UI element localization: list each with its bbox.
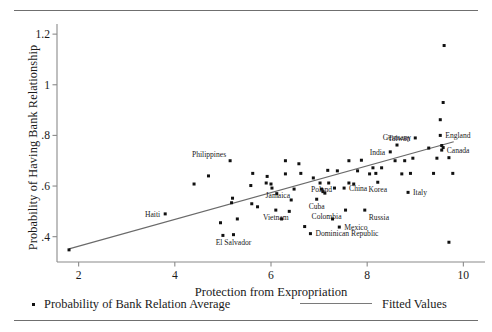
data-point-label: Vietnam (263, 213, 289, 222)
data-point (333, 187, 336, 190)
data-points-group (68, 44, 455, 251)
data-point (439, 134, 442, 137)
data-point (309, 232, 312, 235)
data-point (315, 198, 318, 201)
data-point (274, 209, 277, 212)
fitted-values-line (69, 142, 454, 249)
data-point (407, 191, 410, 194)
x-tick-label: 4 (172, 269, 178, 282)
data-point (376, 181, 379, 184)
data-point (409, 172, 412, 175)
data-point (270, 183, 273, 186)
data-point (256, 205, 259, 208)
data-point (284, 172, 287, 175)
data-point (270, 187, 273, 190)
data-point (394, 159, 397, 162)
x-tick-label: 6 (268, 269, 274, 282)
data-point (435, 157, 438, 160)
data-point (363, 209, 366, 212)
scatter-plot: .4.6.811.2246810 HaitiEl SalvadorPhilipp… (0, 0, 492, 332)
y-tick-label: .4 (41, 231, 50, 244)
data-point-label: Mexico (344, 223, 367, 232)
data-point (193, 183, 196, 186)
data-point-label: England (445, 131, 471, 140)
legend-item-fitted: Fitted Values (300, 297, 447, 312)
point-labels-group: HaitiEl SalvadorPhilippinesVietnamJamaic… (145, 131, 471, 246)
data-point-label: Korea (368, 185, 387, 194)
data-point (360, 159, 363, 162)
y-tick-label: 1.2 (36, 28, 51, 41)
data-point (371, 166, 374, 169)
data-point (380, 166, 383, 169)
data-point (266, 175, 269, 178)
data-point (290, 198, 293, 201)
data-point (251, 172, 254, 175)
x-tick-label: 2 (76, 269, 82, 282)
data-point-label: Haiti (145, 210, 160, 219)
data-point-label: Canada (447, 146, 470, 155)
data-point (403, 159, 406, 162)
data-point (343, 187, 346, 190)
data-point (221, 234, 224, 237)
data-point (303, 225, 306, 228)
data-point (219, 221, 222, 224)
data-point (447, 156, 450, 159)
data-point (400, 172, 403, 175)
data-point (336, 169, 339, 172)
x-tick-label: 8 (364, 269, 370, 282)
data-point-label: Cuba (309, 202, 326, 211)
data-point (326, 169, 329, 172)
data-point-label: Jamaica (266, 191, 291, 200)
legend-fitted-label: Fitted Values (382, 297, 447, 311)
data-point (368, 172, 371, 175)
data-point-label: Colombia (312, 212, 343, 221)
data-point (411, 157, 414, 160)
y-tick-label: .8 (41, 129, 50, 142)
data-point (236, 217, 239, 220)
data-point (447, 241, 450, 244)
data-point (249, 184, 252, 187)
data-point (356, 169, 359, 172)
x-tick-label: 10 (458, 269, 470, 282)
y-tick-label: .6 (41, 180, 50, 193)
data-point-label: Taiwan (388, 134, 410, 143)
figure-container: Probability of Having Bank Relationship … (0, 0, 492, 332)
data-point (395, 144, 398, 147)
data-point (164, 212, 167, 215)
axes-group: .4.6.811.2246810 (36, 24, 486, 282)
data-point (230, 201, 233, 204)
data-point (265, 182, 268, 185)
legend-points-label: Probability of Bank Relation Average (44, 297, 230, 311)
square-dot-marker-icon (32, 303, 35, 306)
data-point (231, 197, 234, 200)
data-point (347, 159, 350, 162)
chart-legend: Probability of Bank Relation Average Fit… (0, 297, 492, 317)
data-point (284, 159, 287, 162)
y-tick-label: 1 (44, 79, 50, 92)
data-point (443, 44, 446, 47)
fitted-line-group (69, 142, 454, 249)
legend-item-points: Probability of Bank Relation Average (32, 297, 230, 312)
data-point (427, 147, 430, 150)
data-point (297, 162, 300, 165)
data-point-label: Poland (311, 185, 332, 194)
data-point (250, 202, 253, 205)
data-point (338, 226, 341, 229)
data-point (232, 233, 235, 236)
data-point-label: China (349, 184, 368, 193)
data-point (389, 150, 392, 153)
data-point (414, 136, 417, 139)
data-point (451, 172, 454, 175)
data-point-label: Philippines (192, 150, 226, 159)
data-point (68, 248, 71, 251)
data-point (229, 159, 232, 162)
data-point (439, 118, 442, 121)
data-point (442, 146, 445, 149)
data-point-label: Italy (413, 188, 427, 197)
data-point-label: El Salvador (216, 238, 252, 247)
data-point (293, 188, 296, 191)
data-point (207, 174, 210, 177)
data-point-label: India (370, 148, 386, 157)
data-point (432, 172, 435, 175)
data-point (344, 209, 347, 212)
